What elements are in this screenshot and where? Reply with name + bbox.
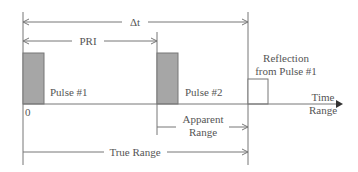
origin-label: 0 <box>25 106 31 118</box>
radar-range-ambiguity-diagram: Δt PRI Pulse #1 Pulse #2 Reflection from… <box>0 0 358 172</box>
pulse2-label: Pulse #2 <box>185 86 223 98</box>
true-range-dimension: True Range <box>23 146 248 158</box>
apparent-range-dimension: Apparent Range <box>157 113 248 138</box>
axis-label-range: Range <box>309 104 337 116</box>
pulse1-rect <box>23 53 44 104</box>
delta-t-label: Δt <box>130 16 140 28</box>
reflection-label-line2: from Pulse #1 <box>255 65 317 77</box>
reflection-label-line1: Reflection <box>263 52 309 64</box>
delta-t-dimension: Δt <box>23 16 248 28</box>
pulse2-rect <box>157 53 178 104</box>
axis-label-time: Time <box>312 91 335 103</box>
true-range-label: True Range <box>109 146 160 158</box>
pulse1-label: Pulse #1 <box>50 86 88 98</box>
pri-dimension: PRI <box>23 35 157 47</box>
reflection-rect <box>248 79 268 104</box>
apparent-range-label-line1: Apparent <box>183 113 224 125</box>
pri-label: PRI <box>79 35 96 47</box>
apparent-range-label-line2: Range <box>189 126 217 138</box>
